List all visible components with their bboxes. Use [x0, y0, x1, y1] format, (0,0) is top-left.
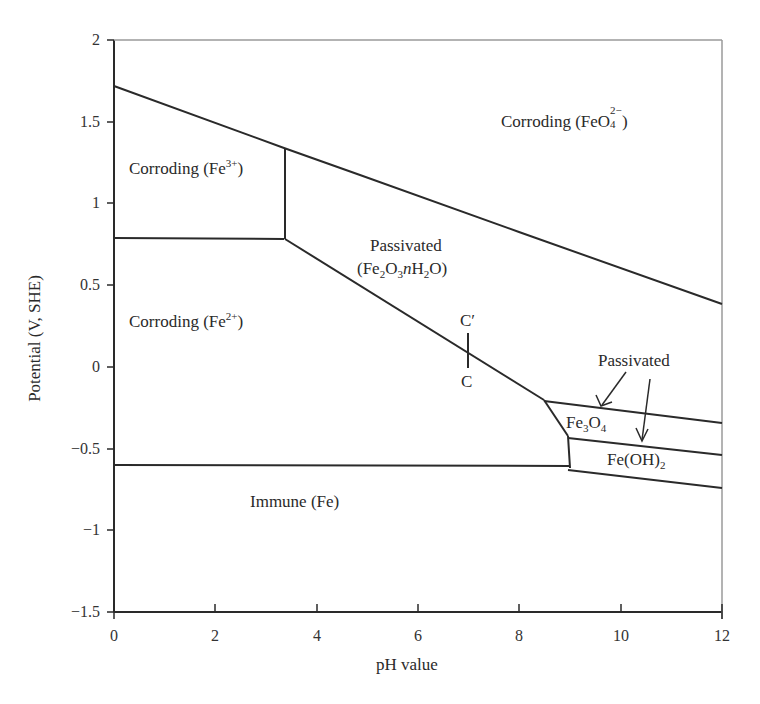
- x-tick-4: 4: [297, 628, 337, 644]
- fe2-feoh2-boundary: [568, 436, 570, 468]
- x-tick-8: 8: [499, 628, 539, 644]
- region-label-fe3: Corroding (Fe3+): [129, 160, 243, 177]
- region-label-passivated: Passivated: [370, 237, 442, 254]
- region-label-immune: Immune (Fe): [250, 493, 339, 510]
- y-tick-0: 0: [40, 359, 100, 375]
- immune-boundary: [114, 465, 570, 466]
- region-label-feoh2: Fe(OH)2: [607, 451, 665, 468]
- c-prime-label: C′: [460, 312, 475, 329]
- x-tick-12: 12: [702, 628, 742, 644]
- y-tick-1: 1: [40, 195, 100, 211]
- passivated-annotation: Passivated: [598, 352, 670, 369]
- x-tick-0: 0: [94, 628, 134, 644]
- fe2-fe3o4-boundary: [544, 400, 568, 436]
- c-label: C: [461, 373, 472, 390]
- x-tick-6: 6: [398, 628, 438, 644]
- region-label-fe2: Corroding (Fe2+): [129, 313, 243, 330]
- x-tick-10: 10: [601, 628, 641, 644]
- feoh2-lower-boundary: [568, 470, 722, 488]
- y-tick-2: 2: [40, 32, 100, 48]
- x-axis-title: pH value: [376, 656, 438, 673]
- y-ticks: [107, 40, 114, 612]
- region-label-fe3o4: Fe3O4: [566, 414, 606, 431]
- y-tick-neg1.5: −1.5: [40, 604, 100, 620]
- fe3-fe2-boundary: [114, 238, 284, 239]
- region-label-feo4: Corroding (FeO2−4): [501, 110, 628, 130]
- y-tick-0.5: 0.5: [40, 277, 100, 293]
- y-tick-neg0.5: −0.5: [40, 441, 100, 457]
- region-label-fe2o3: (Fe2O3nH2O): [357, 260, 447, 277]
- y-tick-neg1: −1: [40, 522, 100, 538]
- y-tick-1.5: 1.5: [40, 114, 100, 130]
- x-tick-2: 2: [195, 628, 235, 644]
- y-axis-title: Potential (V, SHE): [26, 259, 43, 419]
